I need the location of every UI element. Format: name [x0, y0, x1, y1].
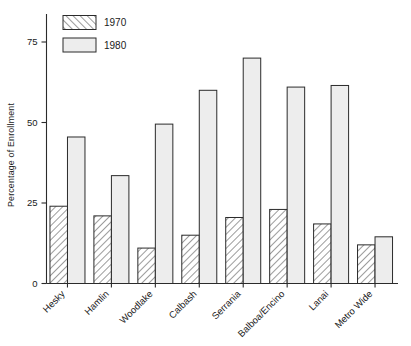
- bar-1970-balboa-encino: [270, 209, 288, 283]
- bar-1980-metro-wide: [375, 237, 393, 284]
- bar-chart: 0255075 HeskyHamlinWoodlakeCalbashSerran…: [0, 0, 411, 346]
- bar-1980-hesky: [67, 137, 85, 284]
- chart-canvas: 0255075 HeskyHamlinWoodlakeCalbashSerran…: [0, 0, 411, 346]
- bar-1970-metro-wide: [358, 245, 376, 284]
- bar-1980-hamlin: [111, 176, 129, 284]
- bar-1980-balboa-encino: [287, 87, 305, 283]
- y-tick-label: 25: [27, 197, 38, 208]
- y-tick-label: 50: [27, 117, 38, 128]
- legend-swatch-1970: [63, 16, 96, 30]
- bar-1980-calbash: [199, 90, 217, 283]
- legend-label-1970: 1970: [104, 17, 127, 28]
- bar-1980-serrania: [243, 58, 261, 283]
- y-tick-label: 0: [32, 278, 37, 289]
- bar-1970-lanai: [314, 224, 332, 284]
- bar-1970-woodlake: [138, 248, 156, 283]
- legend-label-1980: 1980: [104, 40, 127, 51]
- bar-1970-calbash: [182, 235, 200, 283]
- bar-1970-hesky: [50, 206, 68, 283]
- y-axis-title: Percentage of Enrollment: [6, 103, 16, 207]
- legend-swatch-1980: [63, 38, 96, 52]
- bar-1970-serrania: [226, 217, 244, 283]
- bar-1980-lanai: [331, 85, 349, 283]
- bar-1980-woodlake: [155, 124, 173, 283]
- bar-1970-hamlin: [94, 216, 112, 284]
- y-tick-label: 75: [27, 36, 38, 47]
